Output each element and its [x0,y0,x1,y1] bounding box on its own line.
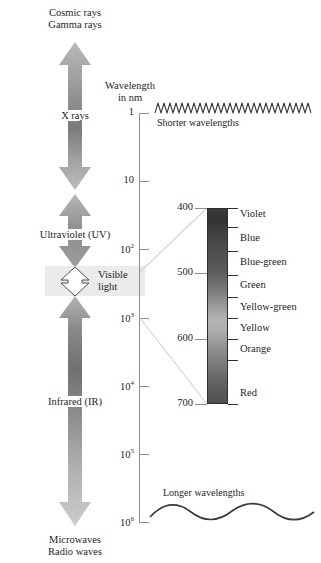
color-divider-tick [228,404,238,405]
axis-caption-line1: Wavelength [85,80,175,92]
color-label-red: Red [240,387,257,398]
electromagnetic-spectrum-figure: Cosmic rays Gamma rays X rays [0,0,321,563]
band-label-line1: Microwaves [0,534,150,546]
color-label-blue: Blue [240,232,260,243]
spectrum-scale-tick [195,339,207,340]
axis-tick-label: 105 [96,447,134,460]
spectrum-scale-label: 700 [155,397,193,408]
band-label-line1: Cosmic rays [0,7,150,19]
spectrum-scale-label: 600 [155,332,193,343]
band-label-text: Ultraviolet (UV) [37,229,113,240]
spectrum-scale-label: 500 [155,266,193,277]
band-label-line2: Radio waves [0,546,150,558]
color-label-yellow: Yellow [240,322,270,333]
color-label-yellow-green: Yellow-green [240,301,297,312]
axis-tick [140,113,149,114]
spectrum-scale-tick [195,208,207,209]
spectrum-connector-lines [138,200,218,415]
band-label-infrared: Infrared (IR) [0,396,150,408]
color-divider-tick [228,208,238,209]
axis-tick [140,522,149,523]
axis-tick-label: 103 [96,311,134,324]
color-divider-tick [228,297,238,298]
color-divider-tick [228,251,238,252]
visible-spectrum-bar [207,208,228,404]
long-wavelength-label: Longer wavelengths [163,487,244,498]
axis-tick-label: 104 [96,379,134,392]
band-label-text: Infrared (IR) [45,396,105,407]
axis-tick [140,454,149,455]
short-wavelength-wave [155,100,315,118]
color-label-green: Green [240,279,266,290]
color-label-blue-green: Blue-green [240,256,287,267]
spectrum-scale-tick [195,404,207,405]
axis-tick-label: 1 [100,106,134,117]
color-divider-tick [228,227,238,228]
band-label-microwaves-radio: Microwaves Radio waves [0,534,150,558]
axis-tick-label: 102 [96,242,134,255]
color-divider-tick [228,339,238,340]
color-divider-tick [228,318,238,319]
color-divider-tick [228,360,238,361]
color-label-orange: Orange [240,343,271,354]
band-label-text: X rays [58,110,92,121]
band-label-ultraviolet: Ultraviolet (UV) [0,229,150,241]
spectrum-scale-label: 400 [155,201,193,212]
spectrum-scale-tick [195,273,207,274]
band-label-line2: Gamma rays [0,19,150,31]
arrow-infrared [50,296,100,526]
long-wavelength-wave [150,503,315,525]
short-wavelength-label: Shorter wavelengths [157,117,239,128]
color-label-violet: Violet [240,208,266,219]
axis-tick-label: 106 [96,515,134,528]
axis-tick [140,181,149,182]
arrow-visible-light [56,266,94,297]
color-divider-tick [228,275,238,276]
band-label-cosmic-gamma: Cosmic rays Gamma rays [0,7,150,31]
axis-tick-label: 10 [100,174,134,185]
